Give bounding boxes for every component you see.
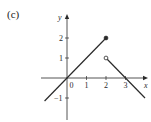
function-graph: xy0123−112 (0, 0, 151, 122)
filled-endpoint-dot (104, 36, 108, 40)
y-axis-arrow-icon (65, 14, 69, 19)
x-axis-label: x (143, 81, 148, 90)
y-axis-label: y (57, 13, 62, 22)
x-tick-label: 1 (85, 81, 89, 90)
x-tick-label: 0 (70, 81, 74, 90)
x-tick-label: 3 (124, 81, 128, 90)
y-tick-label: 1 (59, 54, 63, 63)
y-tick-label: 2 (59, 34, 63, 43)
x-axis-arrow-icon (143, 76, 148, 80)
open-endpoint-dot (104, 56, 108, 60)
x-tick-label: 2 (104, 81, 108, 90)
y-tick-label: −1 (54, 94, 63, 103)
segment-1-line (45, 38, 106, 101)
